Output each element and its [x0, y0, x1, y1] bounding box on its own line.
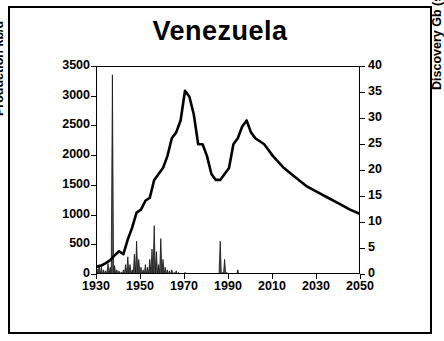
x-tick-mark	[140, 274, 141, 279]
discovery-spike	[105, 271, 107, 274]
y-tick-right: 0	[368, 266, 408, 280]
chart-title: Venezuela	[0, 16, 440, 47]
y-tick-mark-right	[360, 222, 365, 223]
discovery-spike	[182, 273, 184, 274]
y-tick-left: 0	[38, 266, 90, 280]
discovery-spike	[190, 273, 192, 274]
y-tick-right: 35	[368, 84, 408, 98]
y-tick-mark-right	[360, 66, 365, 67]
y-tick-left: 1000	[38, 207, 90, 221]
discovery-spike	[97, 269, 98, 274]
x-tick: 1970	[162, 279, 206, 293]
x-tick: 2010	[250, 279, 294, 293]
y-tick-mark-right	[360, 170, 365, 171]
discovery-spike	[184, 272, 186, 274]
x-tick: 2050	[338, 279, 382, 293]
discovery-spike	[138, 259, 140, 274]
x-tick: 2030	[294, 279, 338, 293]
discovery-spike	[100, 267, 102, 274]
y-tick-mark-right	[360, 92, 365, 93]
y-tick-right: 5	[368, 240, 408, 254]
discovery-spike	[135, 241, 137, 274]
discovery-spike	[197, 273, 199, 274]
discovery-spike	[237, 270, 239, 274]
discovery-spike	[164, 267, 166, 274]
y-tick-right: 15	[368, 188, 408, 202]
y-tick-left: 2500	[38, 117, 90, 131]
x-tick-mark	[272, 274, 273, 279]
discovery-series	[97, 75, 252, 274]
discovery-spike	[166, 270, 168, 274]
discovery-spike	[175, 271, 177, 274]
y-tick-right: 25	[368, 136, 408, 150]
chart-canvas	[97, 67, 360, 274]
y-tick-left: 2000	[38, 147, 90, 161]
discovery-spike	[219, 241, 221, 274]
x-tick-mark	[228, 274, 229, 279]
discovery-spike	[173, 272, 175, 274]
discovery-spike	[107, 264, 109, 274]
x-tick-mark	[96, 274, 97, 279]
y-tick-mark-right	[360, 196, 365, 197]
production-series	[97, 91, 360, 267]
discovery-spike	[177, 272, 179, 274]
y-tick-right: 30	[368, 110, 408, 124]
discovery-spike	[188, 273, 190, 274]
y-tick-left: 1500	[38, 177, 90, 191]
y-tick-mark-right	[360, 118, 365, 119]
y-tick-left: 3000	[38, 88, 90, 102]
y-tick-right: 40	[368, 58, 408, 72]
discovery-spike	[127, 257, 129, 274]
x-tick: 1950	[118, 279, 162, 293]
x-tick: 1990	[206, 279, 250, 293]
x-tick: 1930	[74, 279, 118, 293]
discovery-spike	[171, 270, 173, 274]
discovery-spike	[116, 270, 118, 274]
y-tick-right: 20	[368, 162, 408, 176]
discovery-spike	[153, 226, 155, 274]
discovery-spike	[206, 273, 208, 274]
plot-area	[96, 66, 360, 274]
y-tick-right: 10	[368, 214, 408, 228]
discovery-spike	[102, 270, 104, 274]
y-tick-mark-right	[360, 248, 365, 249]
discovery-spike	[129, 265, 131, 274]
discovery-spike	[140, 267, 142, 274]
discovery-spike	[122, 270, 124, 274]
discovery-spike	[118, 271, 120, 274]
x-tick-mark	[184, 274, 185, 279]
discovery-spike	[144, 265, 146, 274]
y-axis-right-label: Discovery Gb (shaded)	[430, 0, 444, 90]
y-axis-left-label: Production kb/d	[0, 21, 6, 116]
discovery-spike	[155, 252, 157, 274]
y-tick-left: 3500	[38, 58, 90, 72]
discovery-spike	[142, 270, 144, 274]
discovery-spike	[168, 271, 170, 274]
discovery-spike	[228, 273, 230, 274]
discovery-spike	[111, 75, 113, 274]
discovery-spike	[223, 259, 225, 274]
discovery-spike	[186, 273, 188, 274]
x-tick-mark	[360, 274, 361, 279]
y-tick-left: 500	[38, 236, 90, 250]
x-tick-mark	[316, 274, 317, 279]
discovery-spike	[160, 239, 162, 274]
discovery-spike	[179, 273, 181, 274]
discovery-spike	[162, 259, 164, 274]
discovery-spike	[120, 272, 122, 274]
y-tick-mark-right	[360, 144, 365, 145]
